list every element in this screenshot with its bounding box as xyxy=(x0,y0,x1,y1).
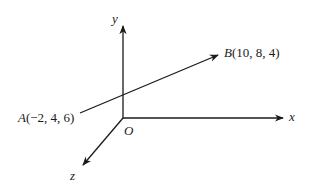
z-axis xyxy=(83,118,123,165)
point-b-label: B(10, 8, 4) xyxy=(224,46,280,59)
diagram-canvas xyxy=(0,0,311,189)
z-axis-label: z xyxy=(70,169,75,182)
point-a-label: A(−2, 4, 6) xyxy=(18,111,74,124)
vector-ab xyxy=(80,55,218,113)
y-axis-label: y xyxy=(112,12,118,25)
point-a-name: A xyxy=(18,110,26,125)
x-axis-label: x xyxy=(289,110,295,123)
point-a-coords: (−2, 4, 6) xyxy=(26,110,75,125)
point-b-coords: (10, 8, 4) xyxy=(232,45,280,60)
origin-label: O xyxy=(124,124,133,137)
point-b-name: B xyxy=(224,45,232,60)
